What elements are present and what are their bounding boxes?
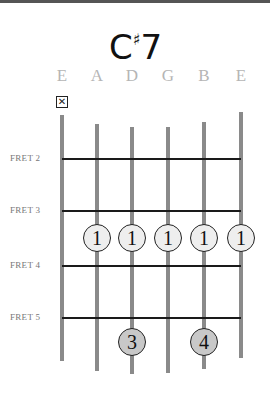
string-label: E bbox=[231, 66, 251, 86]
finger-dot: 1 bbox=[83, 224, 111, 252]
muted-string-icon: ✕ bbox=[56, 96, 68, 108]
fret-line bbox=[62, 265, 241, 267]
string-label: G bbox=[158, 66, 178, 86]
fret-label: FRET 5 bbox=[10, 312, 50, 322]
finger-dot: 3 bbox=[118, 328, 146, 356]
chord-quality: 7 bbox=[140, 27, 161, 67]
finger-dot: 1 bbox=[190, 224, 218, 252]
finger-dot: 4 bbox=[190, 328, 218, 356]
string-label: E bbox=[52, 66, 72, 86]
string-label: A bbox=[87, 66, 107, 86]
finger-dot: 1 bbox=[227, 224, 255, 252]
top-border bbox=[0, 0, 270, 3]
fret-label: FRET 2 bbox=[10, 153, 50, 163]
chord-root: C bbox=[109, 27, 132, 67]
chord-title: C♯7 bbox=[0, 20, 270, 67]
finger-dot: 1 bbox=[154, 224, 182, 252]
fret-label: FRET 4 bbox=[10, 260, 50, 270]
fret-line bbox=[62, 317, 241, 319]
string-line bbox=[60, 115, 64, 361]
string-label: D bbox=[122, 66, 142, 86]
finger-dot: 1 bbox=[118, 224, 146, 252]
string-label: B bbox=[194, 66, 214, 86]
fret-line bbox=[62, 158, 241, 160]
sharp-symbol: ♯ bbox=[133, 30, 140, 49]
fret-line bbox=[62, 210, 241, 212]
fret-label: FRET 3 bbox=[10, 205, 50, 215]
